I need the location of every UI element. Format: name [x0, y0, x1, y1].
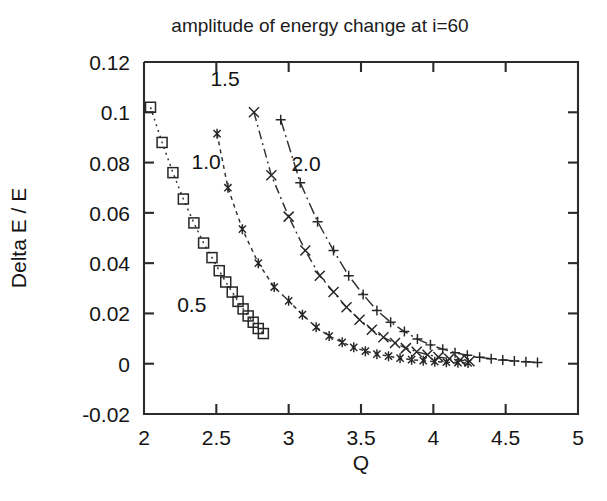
y-tick-label: 0.04: [89, 252, 130, 275]
curve-label: 0.5: [177, 293, 206, 316]
x-tick-label: 3: [283, 426, 295, 449]
curve-label: 2.0: [291, 152, 320, 175]
y-axis-title: Delta E / E: [7, 188, 30, 288]
x-tick-label: 2: [138, 426, 150, 449]
y-tick-label: 0.02: [89, 302, 130, 325]
y-tick-label: -0.02: [82, 403, 130, 426]
curve-label: 1.0: [192, 150, 221, 173]
x-axis-tick-labels: 22.533.544.55: [138, 426, 584, 449]
chart-svg: amplitude of energy change at i=60 22.53…: [0, 0, 607, 501]
x-tick-label: 4.5: [491, 426, 520, 449]
x-tick-label: 4: [427, 426, 439, 449]
y-tick-label: 0.1: [101, 101, 130, 124]
y-tick-label: 0.06: [89, 202, 130, 225]
y-tick-label: 0: [118, 353, 130, 376]
x-tick-label: 2.5: [202, 426, 231, 449]
chart-title: amplitude of energy change at i=60: [171, 15, 468, 36]
x-axis-title: Q: [353, 451, 369, 474]
x-tick-label: 3.5: [346, 426, 375, 449]
x-tick-label: 5: [572, 426, 584, 449]
y-tick-label: 0.12: [89, 51, 130, 74]
curve-label: 1.5: [210, 67, 239, 90]
y-tick-label: 0.08: [89, 152, 130, 175]
chart-figure: amplitude of energy change at i=60 22.53…: [0, 0, 607, 501]
